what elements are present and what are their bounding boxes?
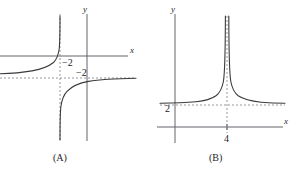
panel-a-curve-left-branch [0,16,60,74]
panel-a-horizontal-asymptote-label: −2 [76,67,87,78]
panel-a-curve-right-branch [60,78,136,140]
panel-b-horizontal-asymptote-label: 2 [165,103,170,114]
panel-a-y-axis-label: y [82,4,87,14]
panel-b-curve-right-branch [229,16,285,103]
panel-a: x y −2 −2 [0,4,136,141]
figure-container: x y −2 −2 x y 2 4 (A) (B) [0,0,291,171]
panel-b-x-axis-label: x [283,116,288,126]
panel-a-x-axis-label: x [129,45,134,55]
panel-b-vertical-asymptote-label: 4 [224,133,229,144]
panel-b: x y 2 4 [157,4,288,144]
panel-a-vertical-asymptote-label: −2 [62,57,73,68]
panel-b-caption: (B) [209,152,222,163]
panel-b-curve-left-branch [160,16,225,103]
graphs-figure: x y −2 −2 x y 2 4 [0,0,291,171]
panel-a-caption: (A) [53,152,67,163]
panel-b-y-axis-label: y [170,4,175,14]
